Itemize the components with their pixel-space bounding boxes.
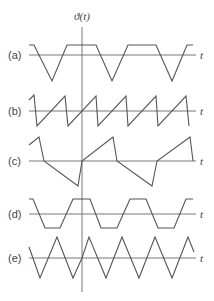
panel-label-a: (a) <box>8 49 21 61</box>
waveform-diagram: ϑ(t) (a) t (b) t (c) t (d) t (e) t <box>0 0 214 301</box>
time-label-d: t <box>200 208 204 220</box>
y-axis-label: ϑ(t) <box>74 10 90 23</box>
panel-a: (a) t <box>8 45 204 81</box>
panel-label-b: (b) <box>8 105 21 117</box>
time-label-c: t <box>200 155 204 167</box>
panel-e: (e) t <box>8 237 204 278</box>
panel-label-d: (d) <box>8 208 21 220</box>
panel-c: (c) t <box>8 137 204 186</box>
waveform-a <box>29 45 193 81</box>
time-label-a: t <box>200 49 204 61</box>
time-label-b: t <box>200 105 204 117</box>
panel-label-c: (c) <box>8 155 21 167</box>
panel-b: (b) t <box>8 95 204 126</box>
panel-d: (d) t <box>8 199 204 228</box>
panel-label-e: (e) <box>8 252 21 264</box>
time-label-e: t <box>200 252 204 264</box>
